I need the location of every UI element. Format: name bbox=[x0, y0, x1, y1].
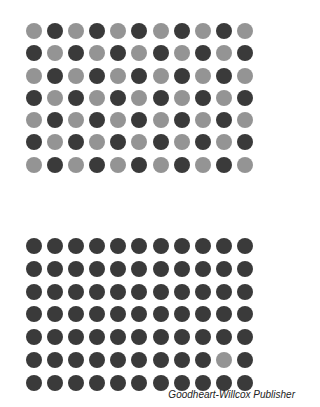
dark-dot bbox=[47, 112, 63, 128]
dark-dot bbox=[26, 261, 42, 277]
dark-dot bbox=[110, 284, 126, 300]
dark-dot bbox=[26, 306, 42, 322]
dark-dot bbox=[89, 352, 105, 368]
dark-dot bbox=[47, 375, 63, 391]
dark-dot bbox=[68, 134, 84, 150]
dark-dot bbox=[237, 261, 253, 277]
light-dot bbox=[216, 45, 232, 61]
dark-dot bbox=[89, 68, 105, 84]
dark-dot bbox=[237, 134, 253, 150]
dark-dot bbox=[47, 306, 63, 322]
dark-dot bbox=[26, 134, 42, 150]
light-dot bbox=[89, 90, 105, 106]
light-dot bbox=[89, 45, 105, 61]
dark-dot bbox=[26, 352, 42, 368]
light-dot bbox=[110, 68, 126, 84]
light-dot bbox=[195, 157, 211, 173]
dark-dot bbox=[195, 238, 211, 254]
dark-dot bbox=[89, 238, 105, 254]
dark-dot bbox=[110, 306, 126, 322]
light-dot bbox=[237, 112, 253, 128]
dark-dot bbox=[89, 284, 105, 300]
dark-dot bbox=[174, 112, 190, 128]
dark-dot bbox=[153, 352, 169, 368]
dark-dot bbox=[174, 238, 190, 254]
dark-dot bbox=[174, 329, 190, 345]
dark-dot bbox=[89, 157, 105, 173]
light-dot bbox=[47, 45, 63, 61]
light-dot bbox=[68, 157, 84, 173]
light-dot bbox=[216, 134, 232, 150]
light-dot bbox=[131, 134, 147, 150]
light-dot bbox=[195, 68, 211, 84]
dark-dot bbox=[237, 352, 253, 368]
dark-dot bbox=[195, 90, 211, 106]
dark-dot bbox=[110, 134, 126, 150]
light-dot bbox=[26, 23, 42, 39]
dark-dot bbox=[110, 352, 126, 368]
dark-dot bbox=[68, 352, 84, 368]
dark-dot bbox=[47, 23, 63, 39]
light-dot bbox=[195, 112, 211, 128]
dark-dot bbox=[174, 352, 190, 368]
dark-dot bbox=[68, 306, 84, 322]
dark-dot bbox=[47, 352, 63, 368]
dark-dot bbox=[195, 134, 211, 150]
light-dot bbox=[131, 45, 147, 61]
dark-dot bbox=[216, 306, 232, 322]
light-dot bbox=[26, 68, 42, 84]
dark-dot bbox=[68, 261, 84, 277]
dark-dot bbox=[237, 329, 253, 345]
dark-dot bbox=[174, 306, 190, 322]
dark-dot bbox=[216, 284, 232, 300]
dark-dot bbox=[153, 261, 169, 277]
dark-dot bbox=[47, 238, 63, 254]
light-dot bbox=[237, 157, 253, 173]
dark-dot bbox=[26, 329, 42, 345]
checkerboard-dot-grid bbox=[26, 23, 253, 173]
light-dot bbox=[174, 90, 190, 106]
light-dot bbox=[131, 90, 147, 106]
dark-dot bbox=[89, 375, 105, 391]
dark-dot bbox=[216, 157, 232, 173]
dark-dot bbox=[237, 90, 253, 106]
dark-dot bbox=[195, 284, 211, 300]
dark-dot bbox=[68, 90, 84, 106]
dark-dot bbox=[89, 261, 105, 277]
dark-dot bbox=[131, 306, 147, 322]
light-dot bbox=[68, 68, 84, 84]
dark-dot bbox=[89, 112, 105, 128]
dark-dot bbox=[216, 23, 232, 39]
dark-dot bbox=[110, 329, 126, 345]
dark-dot bbox=[174, 23, 190, 39]
light-dot bbox=[153, 23, 169, 39]
light-dot bbox=[174, 134, 190, 150]
dark-dot bbox=[131, 352, 147, 368]
dark-dot bbox=[195, 45, 211, 61]
light-dot bbox=[47, 90, 63, 106]
dark-dot bbox=[174, 284, 190, 300]
dark-dot bbox=[153, 375, 169, 391]
dark-dot bbox=[153, 134, 169, 150]
dark-dot bbox=[174, 68, 190, 84]
dark-dot bbox=[237, 306, 253, 322]
dark-dot bbox=[237, 238, 253, 254]
light-dot bbox=[110, 112, 126, 128]
light-dot bbox=[216, 352, 232, 368]
dark-dot bbox=[216, 329, 232, 345]
dark-dot bbox=[68, 329, 84, 345]
dark-dot bbox=[47, 261, 63, 277]
dark-dot bbox=[131, 329, 147, 345]
dark-dot bbox=[153, 90, 169, 106]
light-dot bbox=[68, 23, 84, 39]
publisher-credit: Goodheart-Willcox Publisher bbox=[168, 389, 295, 400]
dark-dot bbox=[68, 238, 84, 254]
dark-dot bbox=[131, 112, 147, 128]
dark-dot bbox=[174, 261, 190, 277]
dark-dot bbox=[110, 90, 126, 106]
light-dot bbox=[47, 134, 63, 150]
dark-dot bbox=[47, 329, 63, 345]
light-dot bbox=[174, 45, 190, 61]
dark-dot bbox=[110, 238, 126, 254]
dark-dot bbox=[216, 112, 232, 128]
